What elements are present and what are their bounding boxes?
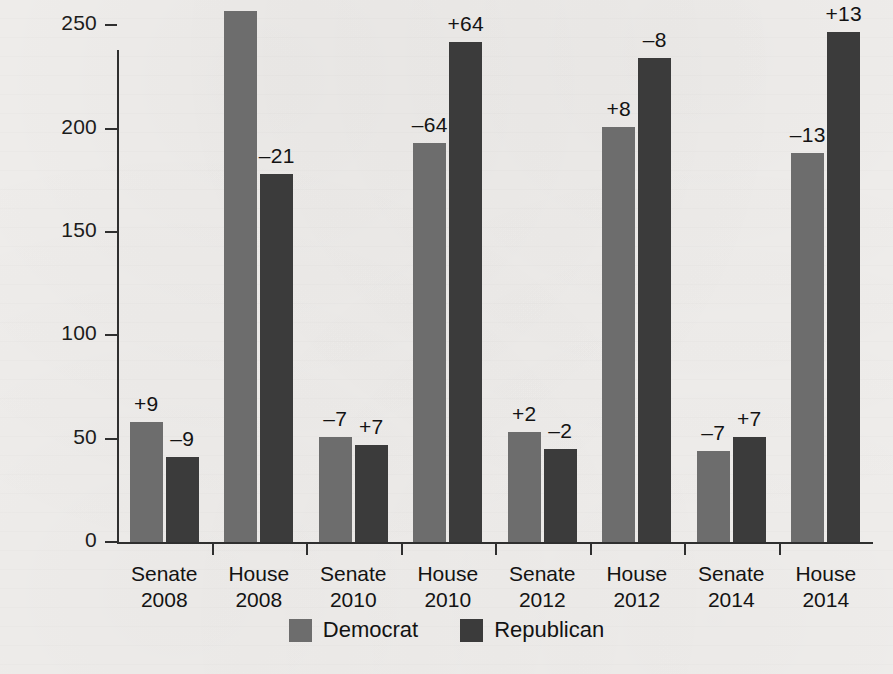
- y-axis-tick-label: 150: [27, 218, 97, 242]
- bar-democrat[interactable]: [319, 437, 352, 542]
- category-label-year: 2012: [590, 587, 685, 613]
- x-axis-category-label: Senate2008: [117, 561, 212, 613]
- category-label-chamber: House: [401, 561, 496, 587]
- bar-value-label: +7: [342, 415, 401, 439]
- bar-value-label: –8: [625, 28, 684, 52]
- grouped-bar-chart: 050100150200250 +9–9+21–21–7+7–64+64+2–2…: [0, 0, 893, 674]
- bar-democrat[interactable]: [413, 143, 446, 542]
- category-label-chamber: Senate: [495, 561, 590, 587]
- category-label-year: 2008: [117, 587, 212, 613]
- bar-value-label: +7: [720, 407, 779, 431]
- legend-label-republican: Republican: [494, 617, 604, 643]
- bar-value-label: +64: [436, 12, 495, 36]
- y-axis-tick: [105, 128, 117, 130]
- y-axis-tick-label: 0: [27, 528, 97, 552]
- x-axis-category-label: House2008: [212, 561, 307, 613]
- category-label-year: 2014: [684, 587, 779, 613]
- y-axis-tick: [105, 541, 117, 543]
- category-label-year: 2014: [779, 587, 874, 613]
- legend-label-democrat: Democrat: [323, 617, 418, 643]
- x-axis-tick: [684, 544, 686, 555]
- bar-republican[interactable]: [733, 437, 766, 542]
- bar-democrat[interactable]: [224, 11, 257, 542]
- y-axis-line: [117, 50, 119, 544]
- x-axis-category-label: House2010: [401, 561, 496, 613]
- bar-democrat[interactable]: [697, 451, 730, 542]
- x-axis-tick: [495, 544, 497, 555]
- y-axis-tick-label: 50: [27, 425, 97, 449]
- x-axis-category-label: Senate2010: [306, 561, 401, 613]
- bar-democrat[interactable]: [508, 432, 541, 542]
- bar-republican[interactable]: [260, 174, 293, 542]
- bar-republican[interactable]: [449, 42, 482, 542]
- x-axis-tick: [212, 544, 214, 555]
- x-axis-category-label: Senate2014: [684, 561, 779, 613]
- bar-value-label: –21: [247, 144, 306, 168]
- bar-republican[interactable]: [166, 457, 199, 542]
- bar-republican[interactable]: [544, 449, 577, 542]
- category-label-chamber: House: [212, 561, 307, 587]
- category-label-chamber: House: [590, 561, 685, 587]
- x-axis-tick: [401, 544, 403, 555]
- legend-swatch-democrat-icon: [289, 619, 312, 642]
- y-axis-tick-label: 100: [27, 321, 97, 345]
- bar-value-label: +13: [814, 2, 873, 26]
- y-axis-tick-label: 250: [27, 11, 97, 35]
- bar-democrat[interactable]: [791, 153, 824, 542]
- category-label-chamber: House: [779, 561, 874, 587]
- legend-swatch-republican-icon: [460, 619, 483, 642]
- x-axis-category-label: House2014: [779, 561, 874, 613]
- bar-republican[interactable]: [355, 445, 388, 542]
- category-label-year: 2008: [212, 587, 307, 613]
- category-label-year: 2012: [495, 587, 590, 613]
- y-axis-tick: [105, 24, 117, 26]
- bar-value-label: +9: [117, 392, 176, 416]
- y-axis-tick: [105, 438, 117, 440]
- bar-value-label: –9: [153, 427, 212, 451]
- category-label-chamber: Senate: [117, 561, 212, 587]
- x-axis-category-label: Senate2012: [495, 561, 590, 613]
- category-label-chamber: Senate: [306, 561, 401, 587]
- legend-item-republican[interactable]: Republican: [460, 617, 604, 643]
- category-label-year: 2010: [306, 587, 401, 613]
- y-axis-tick-label: 200: [27, 115, 97, 139]
- y-axis-tick: [105, 231, 117, 233]
- category-label-year: 2010: [401, 587, 496, 613]
- bar-republican[interactable]: [638, 58, 671, 542]
- y-axis-tick: [105, 334, 117, 336]
- legend-item-democrat[interactable]: Democrat: [289, 617, 418, 643]
- bar-value-label: –2: [531, 419, 590, 443]
- bar-democrat[interactable]: [602, 127, 635, 542]
- bar-value-label: +21: [211, 0, 270, 5]
- category-label-chamber: Senate: [684, 561, 779, 587]
- x-axis-tick: [779, 544, 781, 555]
- bar-republican[interactable]: [827, 32, 860, 542]
- x-axis-category-label: House2012: [590, 561, 685, 613]
- chart-legend: Democrat Republican: [0, 617, 893, 643]
- x-axis-tick: [306, 544, 308, 555]
- x-axis-tick: [590, 544, 592, 555]
